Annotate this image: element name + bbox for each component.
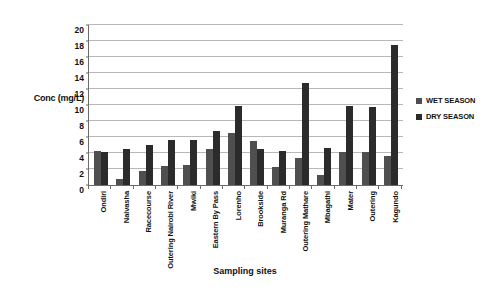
x-tick-label: Outering Mathare (301, 191, 310, 252)
bar-group (135, 25, 157, 185)
x-tick-label: Eastern By Pass (211, 191, 220, 248)
bar-group (90, 25, 112, 185)
x-label-cell: Brookside (245, 189, 267, 255)
bar-group (201, 25, 223, 185)
bar (346, 106, 353, 185)
x-label-cell: Kagundo (379, 189, 401, 255)
legend-label: DRY SEASON (426, 112, 474, 121)
x-label-cell: Eastern By Pass (200, 189, 222, 255)
x-label-cell: Outering Nairobi River (155, 189, 177, 255)
bar-group (380, 25, 402, 185)
bar (302, 83, 309, 185)
bar-group (335, 25, 357, 185)
x-tick-label: Mater (346, 191, 355, 211)
bar (317, 175, 324, 185)
x-label-cell: Muranga Rd (267, 189, 289, 255)
x-axis-title: Sampling sites (88, 266, 402, 276)
bar-group (268, 25, 290, 185)
bar-group (157, 25, 179, 185)
x-label-cell: Lorenho (223, 189, 245, 255)
bar (139, 171, 146, 185)
bar (391, 45, 398, 185)
x-label-cell: Racecourse (133, 189, 155, 255)
x-tick-label: Ondiri (99, 191, 108, 212)
bar (206, 149, 213, 185)
bar (123, 149, 130, 185)
x-tick-label: Racecourse (144, 191, 153, 233)
x-tick-label: Naivasha (122, 191, 131, 223)
bar (369, 107, 376, 185)
bar (279, 151, 286, 185)
bar-group (313, 25, 335, 185)
x-label-cell: Naivasha (110, 189, 132, 255)
x-tick-label: Muranga Rd (279, 191, 288, 233)
x-tick-label: Mwiki (189, 191, 198, 211)
legend-item: DRY SEASON (416, 112, 475, 121)
bar-group (246, 25, 268, 185)
bar (339, 152, 346, 185)
legend-item: WET SEASON (416, 96, 475, 105)
bar-group (112, 25, 134, 185)
x-tick-label: Mbagathi (323, 191, 332, 223)
x-label-cell: Ondiri (88, 189, 110, 255)
x-label-cell: Mbagathi (312, 189, 334, 255)
bar-chart: Conc (mg/L) 20181614121086420 OndiriNaiv… (0, 0, 499, 288)
bar (250, 141, 257, 185)
x-tick-label: Outering Nairobi River (166, 191, 175, 269)
bar (384, 156, 391, 185)
bar (324, 148, 331, 185)
bar (362, 152, 369, 185)
bar (257, 149, 264, 185)
bar (168, 140, 175, 185)
x-label-cell: Mwiki (178, 189, 200, 255)
bar (272, 167, 279, 185)
bars-layer (89, 25, 403, 185)
x-tick-label: Brookside (256, 191, 265, 227)
x-label-cell: Mater (335, 189, 357, 255)
legend-swatch-icon (416, 114, 422, 120)
x-tick-label: Outering (368, 191, 377, 221)
bar (161, 166, 168, 185)
x-label-cell: Outering Mathare (290, 189, 312, 255)
bar-group (357, 25, 379, 185)
x-tick-label: Lorenho (234, 191, 243, 220)
x-label-cell: Outering (357, 189, 379, 255)
bar-group (179, 25, 201, 185)
chart-legend: WET SEASONDRY SEASON (416, 96, 475, 121)
bar (101, 152, 108, 185)
bar (183, 165, 190, 185)
legend-label: WET SEASON (426, 96, 475, 105)
bar (228, 133, 235, 185)
bar (213, 131, 220, 185)
bar (94, 151, 101, 185)
bar-group (224, 25, 246, 185)
bar-group (291, 25, 313, 185)
x-axis-labels: OndiriNaivashaRacecourseOutering Nairobi… (88, 189, 402, 255)
bar (295, 158, 302, 185)
bar (190, 140, 197, 185)
y-axis-title: Conc (mg/L) (14, 93, 84, 103)
bar (146, 145, 153, 185)
bar (235, 106, 242, 185)
legend-swatch-icon (416, 98, 422, 104)
x-tick-label: Kagundo (391, 191, 400, 223)
plot-area: 20181614121086420 (88, 25, 403, 186)
